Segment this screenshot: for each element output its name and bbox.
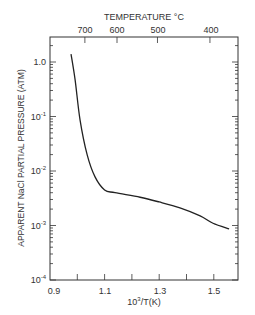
y-tick-label-1e-4: 10-4: [31, 274, 47, 285]
top-axis-title: TEMPERATURE °C: [104, 12, 184, 22]
top-tick-label-400: 400: [203, 25, 218, 35]
x-tick-label-1.1: 1.1: [99, 286, 112, 296]
y-tick-label-1: 1.0: [33, 57, 46, 67]
x-tick-label-0.9: 0.9: [48, 286, 61, 296]
y-tick-label-1e-1: 10-1: [31, 111, 47, 122]
top-tick-label-700: 700: [77, 25, 92, 35]
axis-ticks: [50, 37, 238, 280]
data-curve: [71, 54, 229, 229]
x-tick-label-1.3: 1.3: [154, 286, 167, 296]
plot-frame: [50, 37, 238, 280]
top-tick-label-600: 600: [109, 25, 124, 35]
x-axis-title: 103/T(K): [127, 296, 160, 307]
y-tick-label-1e-2: 10-2: [31, 165, 47, 176]
y-tick-label-1e-3: 10-3: [31, 220, 47, 231]
y-axis-title: APPARENT NaCl PARTIAL PRESSURE (ATM): [16, 69, 26, 247]
chart: TEMPERATURE °C 700 600 500 400 1.0 10-1 …: [0, 0, 255, 315]
top-tick-label-500: 500: [150, 25, 165, 35]
x-tick-label-1.5: 1.5: [208, 286, 221, 296]
